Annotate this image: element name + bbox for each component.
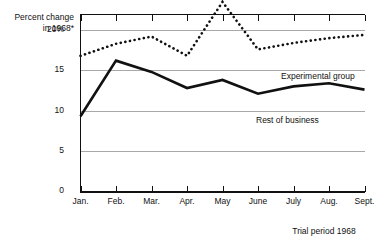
- x-tick-label: May: [203, 196, 243, 206]
- series-lines: [80, 14, 365, 192]
- series-label-experimental-group: Experimental group: [281, 71, 355, 81]
- x-tick-label: June: [238, 196, 278, 206]
- x-tick-label: Apr.: [167, 196, 207, 206]
- y-tick-label: 10: [18, 105, 64, 115]
- x-tick-label: Feb.: [96, 196, 136, 206]
- x-tick-label: Aug.: [309, 196, 349, 206]
- series-line: [81, 2, 365, 56]
- series-line: [81, 61, 365, 117]
- plot-area: [80, 14, 365, 192]
- y-tick-label: 15: [18, 64, 64, 74]
- y-tick-label: 5: [18, 145, 64, 155]
- series-label-rest-of-business: Rest of business: [256, 115, 319, 125]
- x-tick-label: July: [274, 196, 314, 206]
- y-tick-label: 20%: [18, 24, 64, 34]
- chart-container: Percent change in 1968* 05101520% Jan.Fe…: [0, 0, 390, 247]
- y-tick-label: 0: [18, 185, 64, 195]
- y-axis-title-line1: Percent change: [4, 12, 74, 23]
- x-tick-label: Jan.: [61, 196, 101, 206]
- x-tick-label: Sept.: [345, 196, 385, 206]
- x-tick-label: Mar.: [132, 196, 172, 206]
- x-axis-caption: Trial period 1968: [268, 226, 380, 236]
